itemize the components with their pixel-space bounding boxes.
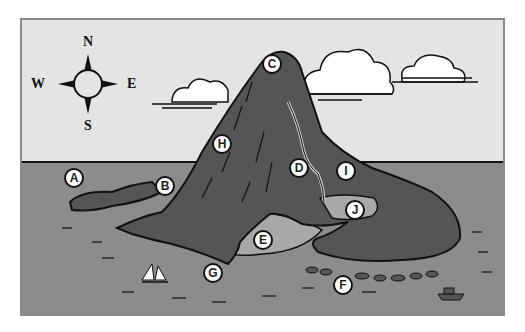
compass-north-label: N xyxy=(83,34,93,50)
marker-e[interactable]: E xyxy=(253,230,273,250)
marker-c[interactable]: C xyxy=(262,54,282,74)
marker-h[interactable]: H xyxy=(212,134,232,154)
compass-east-label: E xyxy=(127,76,136,92)
marker-f[interactable]: F xyxy=(333,275,353,295)
marker-g[interactable]: G xyxy=(203,263,223,283)
marker-b[interactable]: B xyxy=(155,176,175,196)
island-map: N S W E A B C D E F G H I J xyxy=(20,18,505,316)
compass-south-label: S xyxy=(84,118,92,134)
marker-a[interactable]: A xyxy=(64,168,84,188)
compass-west-label: W xyxy=(31,76,45,92)
marker-i[interactable]: I xyxy=(336,161,356,181)
marker-j[interactable]: J xyxy=(345,200,365,220)
marker-d[interactable]: D xyxy=(289,158,309,178)
